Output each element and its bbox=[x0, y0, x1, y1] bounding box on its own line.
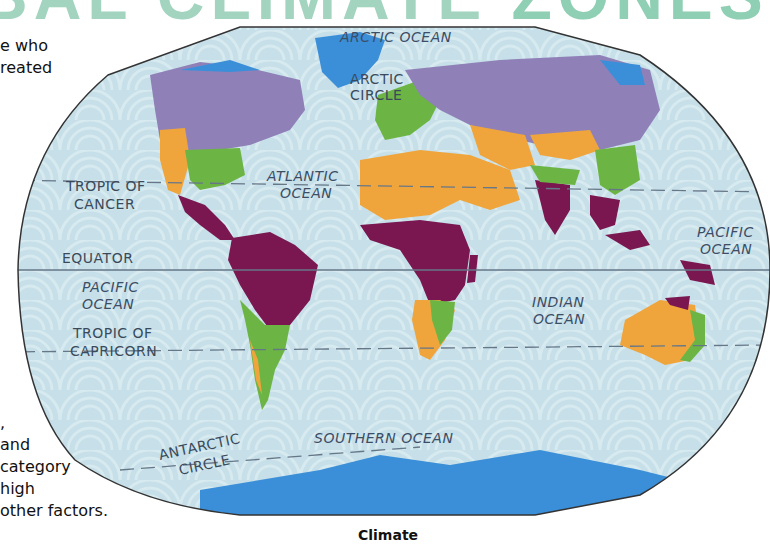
pacific-ocean-west-label-1: PACIFIC bbox=[82, 279, 139, 295]
indian-ocean-label-2: OCEAN bbox=[533, 311, 585, 327]
pacific-ocean-east-label-1: PACIFIC bbox=[697, 224, 754, 240]
tropic-of-capricorn-label-2: CAPRICORN bbox=[70, 343, 157, 359]
pacific-ocean-east-label-2: OCEAN bbox=[700, 241, 752, 257]
arctic-ocean-label: ARCTIC OCEAN bbox=[339, 29, 452, 45]
world-climate-map: ARCTIC OCEAN ARCTIC CIRCLE TROPIC OF CAN… bbox=[0, 0, 770, 547]
pacific-ocean-west-label-2: OCEAN bbox=[82, 296, 134, 312]
equator-label: EQUATOR bbox=[62, 250, 133, 266]
southern-ocean-label: SOUTHERN OCEAN bbox=[314, 430, 453, 446]
indian-ocean-label-1: INDIAN bbox=[532, 294, 585, 310]
map-caption: Climate bbox=[358, 527, 418, 543]
tropic-of-capricorn-label-1: TROPIC OF bbox=[72, 325, 153, 341]
tropic-of-cancer-label-2: CANCER bbox=[74, 196, 135, 212]
arctic-circle-label-2: CIRCLE bbox=[350, 87, 402, 103]
tropic-of-cancer-label-1: TROPIC OF bbox=[65, 178, 146, 194]
atlantic-ocean-label-2: OCEAN bbox=[280, 185, 332, 201]
atlantic-ocean-label-1: ATLANTIC bbox=[266, 168, 338, 184]
arctic-circle-label-1: ARCTIC bbox=[350, 71, 404, 87]
